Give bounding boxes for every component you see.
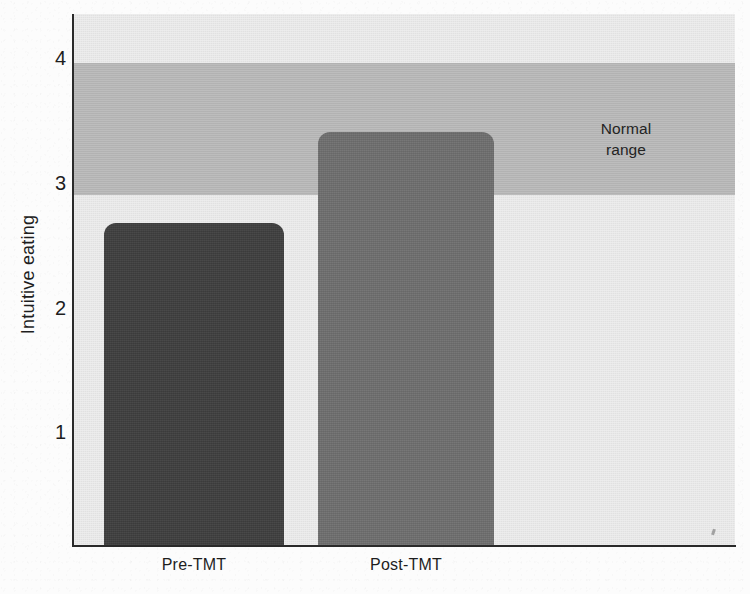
normal-range-label: Normal range bbox=[556, 118, 696, 160]
normal-range-label-line1: Normal bbox=[556, 118, 696, 139]
bar-pre-tmt bbox=[104, 223, 284, 545]
y-axis-title: Intuitive eating bbox=[18, 165, 39, 385]
x-tick-label-post-tmt: Post-TMT bbox=[318, 556, 494, 574]
y-tick-label-4: 4 bbox=[24, 47, 66, 70]
bar-chart-figure: Normal range 4 3 2 1 Intuitive eating Pr… bbox=[0, 0, 750, 594]
plot-area: Normal range bbox=[74, 14, 735, 545]
y-axis-line bbox=[72, 14, 74, 547]
bar-grain-overlay bbox=[104, 223, 284, 545]
y-tick-label-1: 1 bbox=[24, 421, 66, 444]
normal-range-label-line2: range bbox=[556, 139, 696, 160]
x-tick-label-pre-tmt: Pre-TMT bbox=[104, 556, 284, 574]
bar-post-tmt bbox=[318, 132, 494, 545]
bar-grain-overlay bbox=[318, 132, 494, 545]
x-axis-line bbox=[72, 545, 736, 547]
